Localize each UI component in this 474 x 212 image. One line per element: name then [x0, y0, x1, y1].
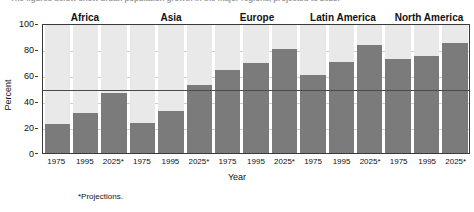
bar[interactable] — [45, 124, 70, 153]
x-tick-label: 2025* — [99, 156, 128, 168]
y-tick-mark — [35, 128, 38, 129]
group-header-north-america: North America — [386, 11, 472, 24]
y-tick-label: 100 — [19, 20, 34, 29]
reference-line-50 — [43, 90, 469, 91]
bar[interactable] — [300, 75, 325, 153]
bar-group-north-america — [384, 25, 469, 153]
bar-group-europe — [213, 25, 298, 153]
x-label-group: 197519952025* — [213, 156, 299, 168]
x-tick-label: 1975 — [42, 156, 71, 168]
bar-slot — [355, 25, 383, 153]
group-header-row: AfricaAsiaEuropeLatin AmericaNorth Ameri… — [42, 11, 472, 24]
y-tick-mark — [35, 76, 38, 77]
bar-slot — [71, 25, 99, 153]
x-tick-label: 2025* — [185, 156, 214, 168]
y-tick-label: 0 — [29, 150, 34, 159]
x-tick-label: 1995 — [156, 156, 185, 168]
group-header-asia: Asia — [128, 11, 214, 24]
bar[interactable] — [187, 85, 212, 153]
bar[interactable] — [73, 113, 98, 153]
bar[interactable] — [215, 70, 240, 153]
x-tick-label: 1975 — [213, 156, 242, 168]
bar[interactable] — [414, 56, 439, 154]
bar-slot — [327, 25, 355, 153]
x-label-group: 197519952025* — [299, 156, 385, 168]
footnote: *Projections. — [78, 192, 123, 201]
x-tick-label: 1995 — [327, 156, 356, 168]
y-tick-mark — [35, 153, 38, 154]
bar[interactable] — [101, 93, 126, 153]
x-label-group: 197519952025* — [128, 156, 214, 168]
bar-slot — [441, 25, 469, 153]
bar-groups — [43, 25, 469, 153]
bar[interactable] — [130, 123, 155, 153]
x-label-group: 197519952025* — [42, 156, 128, 168]
bar[interactable] — [243, 63, 268, 153]
bar-group-latin-america — [299, 25, 384, 153]
y-axis-title: Percent — [3, 71, 13, 119]
bar-slot — [299, 25, 327, 153]
y-tick-label: 80 — [24, 46, 34, 55]
bar-slot — [100, 25, 128, 153]
bar-slot — [384, 25, 412, 153]
y-tick-label: 40 — [24, 98, 34, 107]
bar[interactable] — [357, 45, 382, 153]
figure-caption: The figures below show urban population … — [10, 0, 470, 6]
bar-slot — [213, 25, 241, 153]
group-header-africa: Africa — [42, 11, 128, 24]
bar-slot — [242, 25, 270, 153]
y-tick-label: 60 — [24, 72, 34, 81]
x-tick-label: 1975 — [299, 156, 328, 168]
y-tick-mark — [35, 102, 38, 103]
bar-slot — [128, 25, 156, 153]
x-axis-tick-labels: 197519952025*197519952025*197519952025*1… — [42, 156, 470, 168]
y-tick-mark — [35, 24, 38, 25]
x-tick-label: 2025* — [270, 156, 299, 168]
y-tick-label: 20 — [24, 124, 34, 133]
bar[interactable] — [158, 111, 183, 153]
x-tick-label: 2025* — [441, 156, 470, 168]
x-tick-label: 1975 — [128, 156, 157, 168]
group-header-latin-america: Latin America — [300, 11, 386, 24]
bar-group-africa — [43, 25, 128, 153]
bar-slot — [185, 25, 213, 153]
x-tick-label: 1975 — [384, 156, 413, 168]
bar[interactable] — [385, 59, 410, 153]
bar-slot — [270, 25, 298, 153]
bar[interactable] — [442, 43, 467, 154]
x-tick-label: 1995 — [242, 156, 271, 168]
bar[interactable] — [329, 62, 354, 153]
bar-slot — [412, 25, 440, 153]
bar-slot — [157, 25, 185, 153]
x-axis-title: Year — [0, 172, 474, 182]
y-tick-mark — [35, 50, 38, 51]
y-axis: Percent 020406080100 — [0, 24, 38, 154]
group-header-europe: Europe — [214, 11, 300, 24]
plot-area — [42, 24, 470, 154]
x-label-group: 197519952025* — [384, 156, 470, 168]
plot-frame — [42, 24, 470, 154]
x-tick-label: 1995 — [71, 156, 100, 168]
bar-slot — [43, 25, 71, 153]
x-tick-label: 1995 — [413, 156, 442, 168]
x-tick-label: 2025* — [356, 156, 385, 168]
bar-group-asia — [128, 25, 213, 153]
bar[interactable] — [272, 49, 297, 153]
